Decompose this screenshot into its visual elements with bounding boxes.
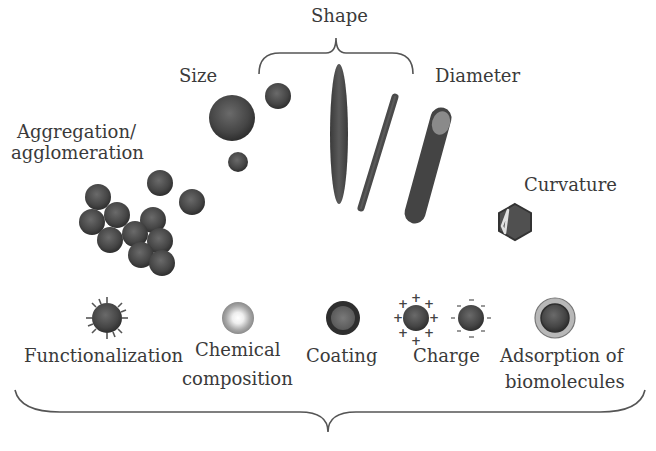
functionalization-particle-icon <box>86 297 128 339</box>
adsorption-label-line1: Adsorption of <box>499 345 625 366</box>
svg-text:+: + <box>398 326 408 340</box>
svg-text:+: + <box>393 311 403 325</box>
aggregation-cluster-icon <box>79 170 205 276</box>
charge-label: Charge <box>413 345 480 366</box>
svg-text:+: + <box>411 291 421 305</box>
adsorption-label-line2: biomolecules <box>505 371 625 392</box>
diameter-label: Diameter <box>435 65 521 86</box>
adsorption-particle-icon <box>535 298 575 338</box>
functionalization-label: Functionalization <box>24 345 183 366</box>
positive-charge-particle-icon: + + + + + + + + <box>393 291 439 348</box>
shape-label: Shape <box>311 5 368 26</box>
aggregation-label-line1: Aggregation/ <box>16 121 137 142</box>
coating-label: Coating <box>306 345 377 366</box>
negative-charge-particle-icon <box>451 300 491 337</box>
diameter-cylinder-icon <box>415 109 453 213</box>
chemical-label-line1: Chemical <box>195 339 281 360</box>
aggregation-label-line2: agglomeration <box>11 142 144 163</box>
curvature-hexagon-icon <box>499 204 531 240</box>
chemical-composition-particle-icon <box>222 302 254 334</box>
svg-text:+: + <box>398 297 408 311</box>
size-label: Size <box>179 65 217 86</box>
coating-particle-icon <box>326 301 360 335</box>
curvature-label: Curvature <box>524 174 617 195</box>
svg-text:+: + <box>424 297 434 311</box>
chemical-label-line2: composition <box>182 368 293 389</box>
bottom-brace <box>15 390 645 432</box>
size-particles-icon <box>209 83 291 172</box>
shape-particles-icon <box>330 64 395 208</box>
svg-text:+: + <box>424 326 434 340</box>
svg-text:+: + <box>429 311 439 325</box>
nanoparticle-properties-diagram: Shape Size Diameter Aggregation/ agglome… <box>0 0 656 451</box>
